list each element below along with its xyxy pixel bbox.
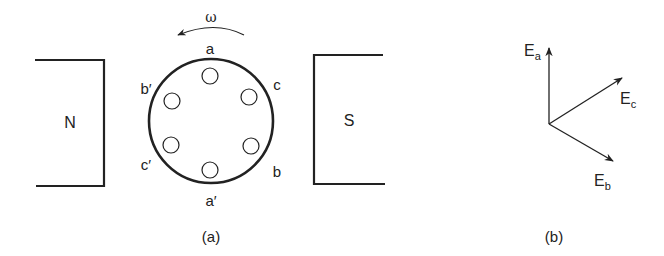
conductor-a-prime: [202, 162, 218, 178]
phasor-eb-arrow: [549, 124, 613, 161]
phasor-ec-arrow: [549, 78, 622, 124]
conductor-b-prime: [164, 93, 180, 109]
rotation-label: ω: [205, 9, 216, 25]
figure-b: Ea Ec Eb (b): [524, 42, 637, 245]
phasor-ec-label: Ec: [620, 90, 637, 110]
conductor-b: [243, 138, 259, 154]
label-a: a: [206, 40, 215, 57]
diagram-stage: N S ω a c b a′ c′ b′ (a) Ea Ec: [0, 0, 664, 256]
conductor-c: [241, 89, 257, 105]
conductor-a: [202, 68, 218, 84]
label-c: c: [273, 76, 281, 93]
conductor-c-prime: [163, 137, 179, 153]
north-pole-label: N: [64, 114, 76, 131]
phasor-eb-label: Eb: [594, 172, 611, 192]
label-a-prime: a′: [205, 192, 216, 209]
caption-a: (a): [202, 228, 220, 245]
generator-diagram: N S ω a c b a′ c′ b′ (a) Ea Ec: [0, 0, 664, 256]
caption-b: (b): [545, 228, 563, 245]
figure-a: N S ω a c b a′ c′ b′ (a): [35, 9, 385, 245]
label-c-prime: c′: [141, 156, 152, 173]
label-b: b: [273, 163, 281, 180]
label-b-prime: b′: [140, 80, 151, 97]
south-pole-label: S: [344, 112, 355, 129]
rotor-circle: [149, 59, 273, 183]
rotation-arrow-icon: [178, 28, 244, 36]
phasor-ea-label: Ea: [524, 42, 542, 62]
